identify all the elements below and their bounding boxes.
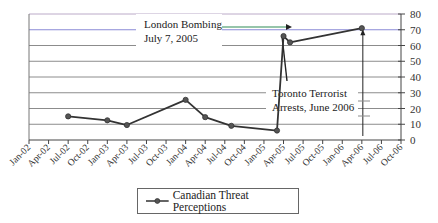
y-tick-label: 0 — [410, 134, 416, 146]
annotations: London BombingJuly 7, 2005Toronto Terror… — [136, 14, 370, 136]
y-tick-label: 10 — [410, 118, 422, 130]
x-tick-label: Oct-06 — [379, 142, 405, 168]
x-tick-label: Apr-04 — [182, 142, 209, 169]
x-tick-label: Apr-06 — [339, 142, 366, 169]
x-tick-label: Oct-03 — [144, 142, 170, 168]
y-tick-label: 20 — [410, 103, 422, 115]
data-point — [105, 118, 110, 123]
annotation-london-text: July 7, 2005 — [144, 32, 199, 44]
y-tick-label: 70 — [410, 24, 422, 36]
legend-line-marker-icon — [146, 195, 169, 207]
y-tick-label: 40 — [410, 71, 422, 83]
legend-label: Canadian Threat Perceptions — [173, 189, 298, 213]
x-tick-label: Oct-05 — [300, 142, 326, 168]
data-point — [66, 114, 71, 119]
data-point — [203, 115, 208, 120]
x-tick-label: Apr-03 — [104, 142, 131, 169]
annotation-toronto-text: Toronto Terrorist — [272, 87, 347, 99]
y-tick-label: 80 — [410, 8, 422, 20]
x-tick-label: Oct-02 — [65, 142, 91, 168]
y-tick-label: 50 — [410, 55, 422, 67]
y-tick-label: 30 — [410, 87, 422, 99]
x-tick-label: Apr-05 — [261, 142, 288, 169]
data-point — [124, 122, 129, 127]
data-point — [229, 123, 234, 128]
x-tick-label: Apr-02 — [26, 142, 53, 169]
annotation-london-text: London Bombing — [144, 18, 222, 30]
y-tick-label: 60 — [410, 40, 422, 52]
x-axis: Jan-02Apr-02Jul-02Oct-02Jan-03Apr-03Jul-… — [7, 140, 404, 169]
arrowhead-icon — [286, 24, 292, 30]
annotation-toronto-text: Arrests, June 2006 — [272, 101, 355, 113]
data-point — [274, 128, 279, 133]
data-point — [183, 97, 188, 102]
x-tick-label: Oct-04 — [222, 142, 248, 168]
legend: Canadian Threat Perceptions — [137, 188, 299, 214]
line-chart: Jan-02Apr-02Jul-02Oct-02Jan-03Apr-03Jul-… — [0, 0, 438, 188]
data-point — [359, 26, 364, 31]
y-axis: 01020304050607080 — [398, 8, 422, 146]
data-point — [287, 40, 292, 45]
data-point — [281, 33, 286, 38]
